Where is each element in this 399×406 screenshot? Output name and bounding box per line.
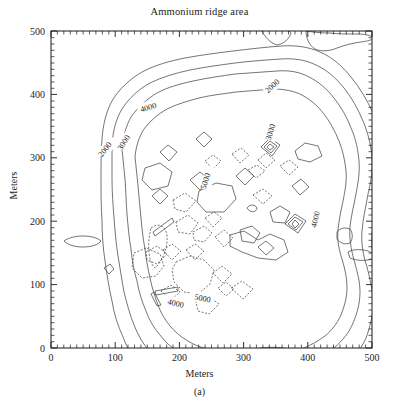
x-tick-label-100: 100: [108, 352, 123, 363]
x-tick-label-400: 400: [300, 352, 315, 363]
y-tick-label-300: 300: [30, 152, 45, 163]
x-tick-labels: 0 100 200 300 400 500: [49, 352, 380, 363]
x-tick-label-300: 300: [236, 352, 251, 363]
y-tick-label-0: 0: [40, 343, 45, 354]
x-tick-label-0: 0: [49, 352, 54, 363]
y-tick-label-200: 200: [30, 216, 45, 227]
y-tick-label-500: 500: [30, 26, 45, 37]
contour-figure: Ammonium ridge area: [0, 0, 399, 406]
y-tick-labels: 0 100 200 300 400 500: [30, 26, 45, 354]
y-axis-label: Meters: [8, 151, 19, 221]
x-tick-label-200: 200: [172, 352, 187, 363]
figure-caption: (a): [0, 386, 399, 397]
contour-chart: 2000 3000 4000 2000 3000 5000 4000 4000 …: [0, 0, 399, 406]
x-tick-label-500: 500: [365, 352, 380, 363]
y-tick-label-100: 100: [30, 279, 45, 290]
y-tick-label-400: 400: [30, 89, 45, 100]
x-axis-label: Meters: [0, 368, 399, 379]
